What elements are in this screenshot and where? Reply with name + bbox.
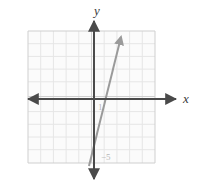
tick-label-y-1: 1 (98, 102, 103, 112)
coordinate-plane-figure: y x 1 −5 (0, 0, 198, 192)
y-axis-label: y (92, 3, 100, 18)
graph-canvas: y x 1 −5 (0, 0, 198, 192)
tick-label-y-minus-5: −5 (101, 152, 111, 162)
x-axis-label: x (182, 91, 189, 106)
